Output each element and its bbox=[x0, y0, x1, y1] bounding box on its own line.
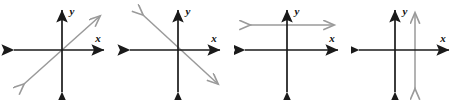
x-axis-label: x bbox=[439, 32, 446, 44]
coordinate-plane-panel-3: x y bbox=[234, 0, 351, 100]
coordinate-plane-panel-2: x y bbox=[117, 0, 234, 100]
x-axis-label: x bbox=[94, 32, 101, 44]
figure-container: x y x y bbox=[0, 0, 470, 100]
coordinate-plane-panel-1: x y bbox=[0, 0, 117, 100]
y-axis-label: y bbox=[401, 5, 408, 17]
y-axis-label: y bbox=[184, 5, 191, 17]
x-axis-label: x bbox=[328, 32, 335, 44]
y-axis-label: y bbox=[293, 5, 300, 17]
y-axis-label: y bbox=[68, 5, 75, 17]
coordinate-plane-panel-4: x y bbox=[351, 0, 468, 100]
x-axis-label: x bbox=[210, 32, 217, 44]
